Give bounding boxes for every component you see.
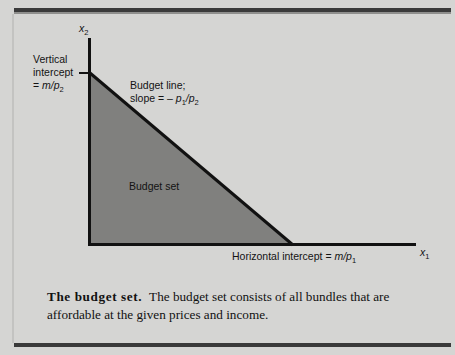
vertical-intercept-label: Vertical intercept = m/p2 [33, 53, 73, 93]
x-axis [88, 243, 416, 246]
horizontal-intercept-label: Horizontal intercept = m/p1 [232, 250, 356, 264]
y-axis-label: x2 [79, 22, 88, 36]
bottom-rule [14, 343, 451, 347]
vertical-intercept-line-2: intercept [33, 66, 73, 79]
vertical-intercept-leader-line [79, 72, 90, 74]
caption-lead-in: The budget set. [47, 289, 142, 304]
budget-line-label: Budget line; slope = – p1/p2 [130, 79, 199, 106]
horizontal-intercept-subscript: 1 [352, 256, 356, 265]
budget-line-slope-p2: p [189, 92, 195, 104]
vertical-intercept-subscript: 2 [60, 85, 64, 94]
y-axis [88, 38, 91, 246]
budget-line-slope-prefix: slope = – [130, 92, 176, 104]
budget-line-title: Budget line; [130, 79, 199, 92]
vertical-intercept-equals: = [33, 79, 42, 91]
x-axis-label: x1 [420, 246, 429, 260]
budget-line-slope-p1: p [176, 92, 182, 104]
figure-page: x2 x1 Vertical intercept = m/p2 Budget l… [0, 0, 455, 355]
vertical-intercept-m: m [42, 79, 51, 91]
y-axis-label-subscript: 2 [84, 28, 88, 37]
budget-set-label: Budget set [129, 180, 179, 193]
horizontal-intercept-m: m [334, 250, 343, 262]
x-axis-label-subscript: 1 [425, 252, 429, 261]
budget-line-slope: slope = – p1/p2 [130, 92, 199, 106]
vertical-intercept-line-3: = m/p2 [33, 79, 73, 93]
vertical-intercept-p: p [54, 79, 60, 91]
budget-line-slope-sub1: 1 [182, 98, 186, 107]
budget-line-slope-sub2: 2 [195, 98, 199, 107]
figure-caption: The budget set.The budget set consists o… [47, 288, 415, 323]
horizontal-intercept-prefix: Horizontal intercept = [232, 250, 334, 262]
vertical-intercept-line-1: Vertical [33, 53, 73, 66]
